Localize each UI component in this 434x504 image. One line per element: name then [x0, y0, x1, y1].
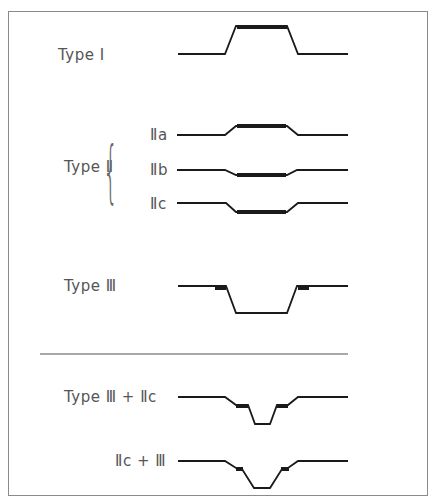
profile-type-1 — [178, 26, 348, 54]
profile-type-3 — [178, 286, 348, 313]
profile-diagram — [0, 0, 434, 504]
profile-type-2c-plus-3 — [178, 461, 348, 488]
profile-type-3-plus-2c — [178, 397, 348, 424]
